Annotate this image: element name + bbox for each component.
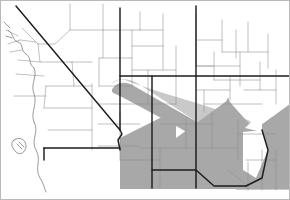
coastline-layer xyxy=(4,22,46,192)
map-figure xyxy=(0,0,290,200)
map-canvas xyxy=(0,0,290,200)
